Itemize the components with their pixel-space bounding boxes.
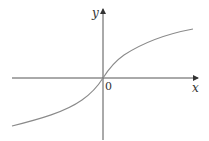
y-axis-label: y: [91, 6, 99, 20]
x-axis-label: x: [192, 81, 199, 95]
origin-label: 0: [105, 80, 112, 93]
graph-figure: y x 0: [0, 0, 209, 141]
